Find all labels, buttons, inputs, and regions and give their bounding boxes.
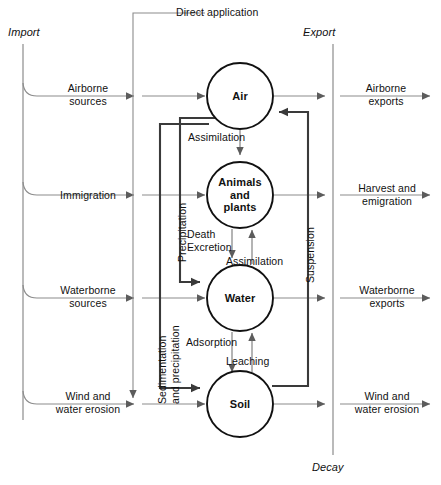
import-label-immigration: Immigration [44, 189, 132, 202]
suspension-path [272, 112, 308, 386]
export-label-waterborne-exports: Waterborne exports [342, 284, 432, 309]
flow-label-suspension: Suspension [304, 227, 317, 283]
export-boundary-label: Export [303, 26, 335, 39]
flow-label-adsorption: Adsorption [186, 336, 237, 349]
diagram-canvas: Import Export Decay Air Animals and plan… [0, 0, 441, 485]
node-label-animals-and-plants: Animals and plants [206, 176, 274, 214]
flow-label-sedimentation-and-precipitation: Sedimentation and precipitation [156, 325, 181, 404]
flow-label-assimilation-air-biota: Assimilation [188, 131, 245, 144]
export-label-wind-and-water-erosion: Wind and water erosion [338, 390, 436, 415]
node-label-air: Air [210, 90, 270, 103]
export-arrows [274, 96, 430, 404]
export-label-airborne-exports: Airborne exports [342, 82, 430, 107]
flow-label-assimilation-water-biota: Assimilation [226, 255, 283, 268]
flow-label-precipitation: Precipitation [176, 203, 189, 262]
import-label-airborne-sources: Airborne sources [44, 82, 132, 107]
import-label-wind-and-water-erosion: Wind and water erosion [40, 390, 136, 415]
flow-label-leaching: Leaching [226, 355, 269, 368]
flow-label-direct-application: Direct application [176, 6, 258, 19]
flow-label-death-excretion: Death Excretion [187, 228, 232, 253]
import-boundary [23, 44, 37, 420]
import-boundary-label: Import [8, 26, 40, 39]
decay-boundary-label: Decay [312, 461, 344, 474]
node-label-soil: Soil [210, 398, 270, 411]
export-label-harvest-and-emigration: Harvest and emigration [340, 182, 434, 207]
node-label-water: Water [210, 292, 270, 305]
import-label-waterborne-sources: Waterborne sources [44, 284, 132, 309]
